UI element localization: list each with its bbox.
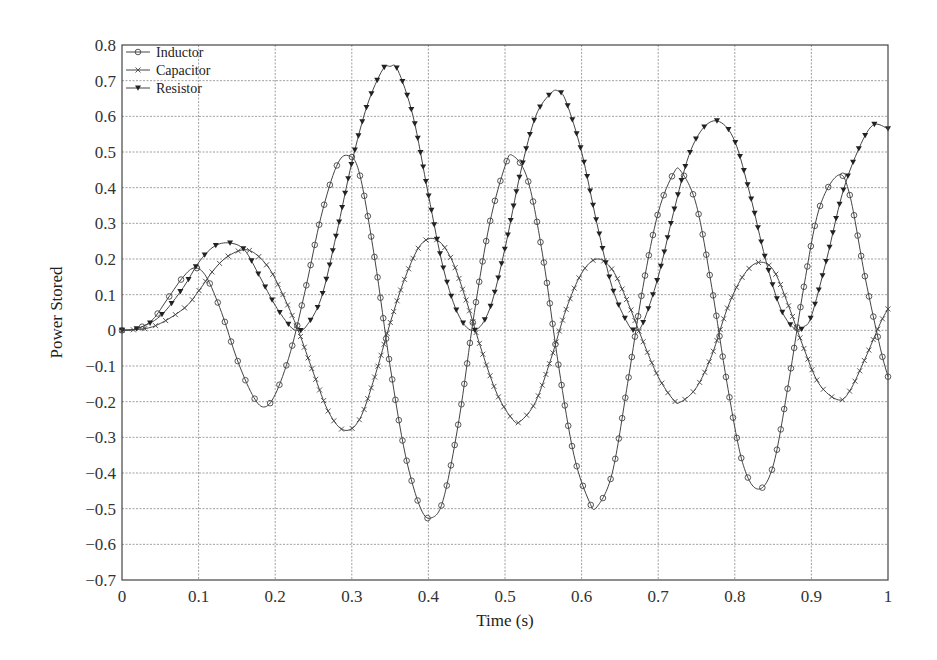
legend-label-capacitor: Capacitor bbox=[156, 63, 211, 78]
y-tick-label: −0.2 bbox=[85, 393, 116, 412]
y-tick-label: 0.4 bbox=[95, 179, 117, 198]
x-tick-label: 0 bbox=[118, 587, 127, 606]
y-tick-label: 0 bbox=[108, 321, 117, 340]
x-tick-label: 0.2 bbox=[265, 587, 286, 606]
x-tick-label: 0.5 bbox=[494, 587, 515, 606]
y-tick-label: 0.1 bbox=[95, 286, 116, 305]
y-tick-label: −0.5 bbox=[85, 500, 116, 519]
power-stored-chart: 00.10.20.30.40.50.60.70.80.910.80.70.60.… bbox=[0, 0, 937, 660]
y-tick-label: 0.8 bbox=[95, 36, 116, 55]
y-tick-label: 0.5 bbox=[95, 143, 116, 162]
y-tick-label: −0.4 bbox=[85, 464, 116, 483]
y-tick-label: −0.1 bbox=[85, 357, 116, 376]
legend-label-inductor: Inductor bbox=[156, 45, 204, 60]
grid bbox=[122, 45, 888, 580]
x-tick-label: 0.9 bbox=[801, 587, 822, 606]
x-tick-label: 0.7 bbox=[648, 587, 670, 606]
x-tick-label: 0.1 bbox=[188, 587, 209, 606]
x-tick-label: 0.6 bbox=[571, 587, 592, 606]
y-axis-label: Power Stored bbox=[47, 266, 66, 359]
y-tick-label: −0.7 bbox=[85, 571, 116, 590]
y-tick-label: 0.2 bbox=[95, 250, 116, 269]
tick-labels: 00.10.20.30.40.50.60.70.80.910.80.70.60.… bbox=[85, 36, 892, 606]
legend-label-resistor: Resistor bbox=[156, 81, 202, 96]
x-axis-label: Time (s) bbox=[476, 611, 533, 630]
y-tick-label: 0.3 bbox=[95, 214, 116, 233]
y-tick-label: 0.6 bbox=[95, 107, 116, 126]
y-tick-label: 0.7 bbox=[95, 72, 117, 91]
x-tick-label: 0.4 bbox=[418, 587, 440, 606]
y-tick-label: −0.6 bbox=[85, 535, 116, 554]
x-tick-label: 0.3 bbox=[341, 587, 362, 606]
legend: InductorCapacitorResistor bbox=[126, 45, 211, 96]
x-tick-label: 1 bbox=[884, 587, 893, 606]
x-tick-label: 0.8 bbox=[724, 587, 745, 606]
y-tick-label: −0.3 bbox=[85, 428, 116, 447]
